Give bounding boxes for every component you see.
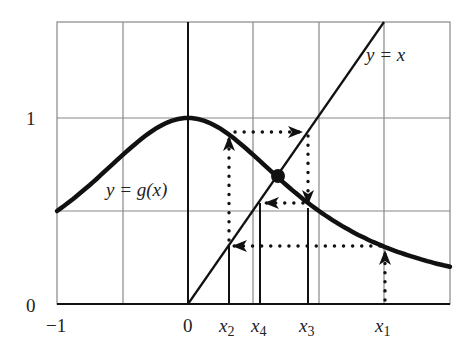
x-tick-neg1: −1: [46, 315, 66, 336]
x-tick-x1: x1: [374, 315, 390, 339]
iterate-verticals: [229, 203, 308, 304]
fixed-point-marker: [271, 169, 285, 183]
identity-label: y = x: [364, 44, 406, 65]
cobweb-diagram: y = x y = g(x) 1 0 −1 0 x2 x4 x3 x1: [0, 0, 475, 360]
x-tick-x2: x2: [218, 315, 234, 339]
x-tick-x3: x3: [298, 315, 314, 339]
identity-line: [188, 22, 384, 304]
y-tick-1: 1: [26, 108, 36, 129]
function-label: y = g(x): [104, 179, 167, 201]
x-tick-0: 0: [183, 315, 193, 336]
x-tick-x4: x4: [250, 315, 266, 339]
y-tick-0: 0: [26, 295, 36, 316]
